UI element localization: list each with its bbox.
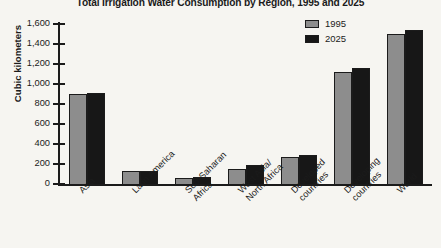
- bar-1995: [334, 72, 352, 184]
- y-axis-tick-label: 1,200: [12, 59, 50, 68]
- bar-group: [281, 24, 317, 184]
- bar-group: [387, 24, 423, 184]
- bar-2025: [405, 30, 423, 184]
- y-axis-tick: [53, 23, 65, 25]
- y-axis-tick: [53, 123, 65, 125]
- bar-2025: [87, 93, 105, 184]
- y-axis-tick-label: 1,600: [12, 19, 50, 28]
- chart-figure: Total Irrigation Water Consumption by Re…: [0, 0, 441, 248]
- y-axis-tick: [53, 163, 65, 165]
- bar-1995: [387, 34, 405, 184]
- y-axis-tick-label: 800: [12, 99, 50, 108]
- y-axis-tick-label: 1,000: [12, 79, 50, 88]
- bar-group: [334, 24, 370, 184]
- y-axis-tick-label: 400: [12, 139, 50, 148]
- y-axis-tick: [53, 83, 65, 85]
- bar-group: [69, 24, 105, 184]
- bar-group: [175, 24, 211, 184]
- y-axis-tick: [53, 183, 65, 185]
- bar-group: [122, 24, 158, 184]
- y-axis-tick: [53, 63, 65, 65]
- bar-1995: [69, 94, 87, 184]
- y-axis-tick-label: 200: [12, 159, 50, 168]
- bar-group: [228, 24, 264, 184]
- y-axis-tick: [53, 103, 65, 105]
- chart-title: Total Irrigation Water Consumption by Re…: [0, 0, 441, 9]
- y-axis-tick-label: 600: [12, 119, 50, 128]
- x-axis-tick-labels: AsiaLatin AmericaSub-Saharan AfricaWest …: [0, 186, 441, 248]
- y-axis-tick-label: 1,400: [12, 39, 50, 48]
- y-axis-tick: [53, 43, 65, 45]
- y-axis-tick: [53, 143, 65, 145]
